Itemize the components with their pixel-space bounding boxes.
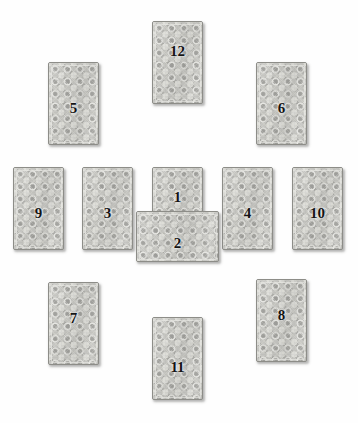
- card-position-number: 11: [153, 360, 202, 375]
- card-position-number: 5: [49, 101, 98, 116]
- tarot-card-10[interactable]: 10: [292, 167, 343, 250]
- card-position-number: 12: [153, 44, 202, 59]
- card-position-number: 4: [223, 206, 272, 221]
- card-position-number: 2: [137, 236, 218, 251]
- card-position-number: 9: [14, 206, 63, 221]
- tarot-card-6[interactable]: 6: [256, 62, 307, 145]
- tarot-card-3[interactable]: 3: [82, 167, 133, 250]
- tarot-card-4[interactable]: 4: [222, 167, 273, 250]
- tarot-spread-diagram: 123456789101112: [0, 0, 358, 423]
- tarot-card-12[interactable]: 12: [152, 21, 203, 104]
- card-position-number: 3: [83, 206, 132, 221]
- card-position-number: 8: [257, 308, 306, 323]
- card-position-number: 10: [293, 206, 342, 221]
- tarot-card-5[interactable]: 5: [48, 62, 99, 145]
- tarot-card-7[interactable]: 7: [48, 282, 99, 365]
- tarot-card-8[interactable]: 8: [256, 279, 307, 362]
- card-back-pattern: [153, 22, 202, 103]
- tarot-card-9[interactable]: 9: [13, 167, 64, 250]
- card-position-number: 7: [49, 311, 98, 326]
- tarot-card-11[interactable]: 11: [152, 317, 203, 400]
- card-position-number: 6: [257, 101, 306, 116]
- card-position-number: 1: [153, 190, 202, 205]
- tarot-card-2[interactable]: 2: [136, 211, 219, 262]
